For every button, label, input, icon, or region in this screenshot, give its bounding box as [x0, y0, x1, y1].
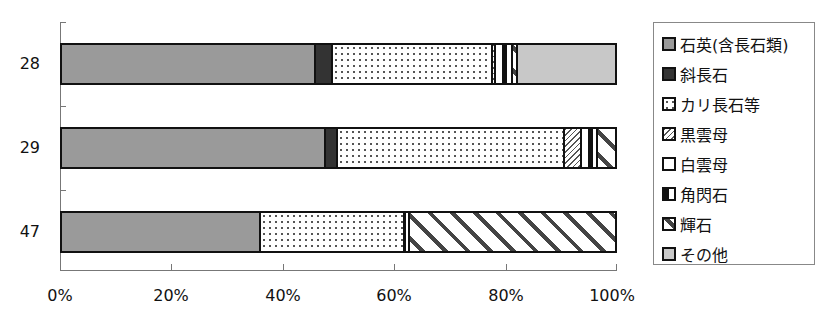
legend-item-plagioclase: 斜長石 — [662, 59, 814, 89]
x-axis — [60, 270, 617, 271]
bar-segment — [504, 45, 512, 83]
legend-swatch-icon — [662, 67, 676, 81]
x-label-40: 40% — [253, 286, 313, 305]
legend-item-biotite: 黒雲母 — [662, 119, 814, 149]
x-tick — [283, 264, 284, 270]
legend-label: 黒雲母 — [680, 122, 728, 146]
legend-swatch-icon — [662, 127, 676, 141]
x-label-20: 20% — [141, 286, 201, 305]
bar-segment — [518, 45, 615, 83]
bar-segment — [598, 129, 615, 167]
legend-swatch-icon — [662, 97, 676, 111]
legend-label: カリ長石等 — [680, 92, 760, 116]
bar-segment — [582, 129, 590, 167]
legend-item-hornblende: 角閃石 — [662, 179, 814, 209]
y-tick — [61, 190, 66, 191]
legend-swatch-icon — [662, 217, 676, 231]
y-tick — [61, 22, 66, 23]
y-label-28: 28 — [0, 54, 40, 74]
x-label-80: 80% — [476, 286, 536, 305]
bar-segment — [590, 129, 598, 167]
legend-label: その他 — [680, 242, 728, 266]
bar-segment — [565, 129, 582, 167]
legend-item-pyroxene: 輝石 — [662, 209, 814, 239]
legend-label: 斜長石 — [680, 62, 728, 86]
bar-row-29 — [60, 127, 617, 169]
legend-label: 白雲母 — [680, 152, 728, 176]
x-label-100: 100% — [582, 286, 642, 305]
bar-segment — [316, 45, 333, 83]
legend-item-k-feldspar: カリ長石等 — [662, 89, 814, 119]
legend: 石英(含長石類) 斜長石 カリ長石等 黒雲母 白雲母 角閃石 輝石 その他 — [653, 22, 815, 265]
x-tick — [394, 264, 395, 270]
legend-label: 石英(含長石類) — [680, 32, 788, 56]
x-tick — [171, 264, 172, 270]
bar-segment — [496, 45, 504, 83]
legend-item-quartz: 石英(含長石類) — [662, 29, 814, 59]
legend-swatch-icon — [662, 157, 676, 171]
bar-row-28 — [60, 43, 617, 85]
bar-row-47 — [60, 211, 617, 253]
bar-segment — [62, 213, 261, 251]
bar-segment — [333, 45, 493, 83]
stacked-bar-chart: 28 29 47 0% 20% 40% 60% 80% 100% 石英(含長石類… — [0, 0, 832, 332]
bar-segment — [261, 213, 405, 251]
legend-swatch-icon — [662, 187, 676, 201]
y-label-29: 29 — [0, 138, 40, 158]
bar-segment — [338, 129, 565, 167]
x-tick — [506, 264, 507, 270]
legend-item-other: その他 — [662, 239, 814, 269]
legend-swatch-icon — [662, 37, 676, 51]
legend-label: 輝石 — [680, 212, 712, 236]
x-label-60: 60% — [364, 286, 424, 305]
legend-swatch-icon — [662, 247, 676, 261]
bar-segment — [62, 45, 316, 83]
bar-segment — [410, 213, 615, 251]
y-label-47: 47 — [0, 222, 40, 242]
y-tick — [61, 106, 66, 107]
bar-segment — [326, 129, 338, 167]
x-label-0: 0% — [30, 286, 90, 305]
bar-segment — [62, 129, 326, 167]
x-tick — [616, 264, 617, 270]
legend-label: 角閃石 — [680, 182, 728, 206]
legend-item-muscovite: 白雲母 — [662, 149, 814, 179]
